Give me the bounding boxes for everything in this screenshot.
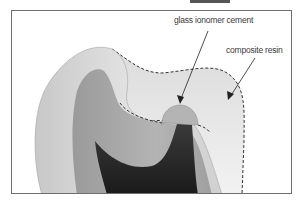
diagram-frame: glass ionomer cement composite resin: [11, 10, 292, 194]
tooth-restoration-illustration: [12, 11, 292, 194]
glass-ionomer-label: glass ionomer cement: [174, 15, 253, 25]
cropped-title-fragment: [190, 0, 230, 3]
composite-resin-arrow: [230, 58, 255, 97]
composite-resin-label: composite resin: [226, 45, 283, 55]
